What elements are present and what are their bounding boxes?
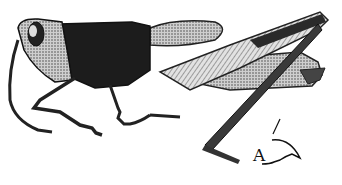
detail-a-shape xyxy=(262,140,300,164)
figure-label: A xyxy=(253,145,265,165)
wing xyxy=(150,21,223,46)
detail-pointer xyxy=(273,119,280,134)
grasshopper-drawing xyxy=(0,0,342,185)
head xyxy=(18,19,72,82)
illustration-canvas: A xyxy=(0,0,342,185)
middle-leg xyxy=(110,85,150,124)
